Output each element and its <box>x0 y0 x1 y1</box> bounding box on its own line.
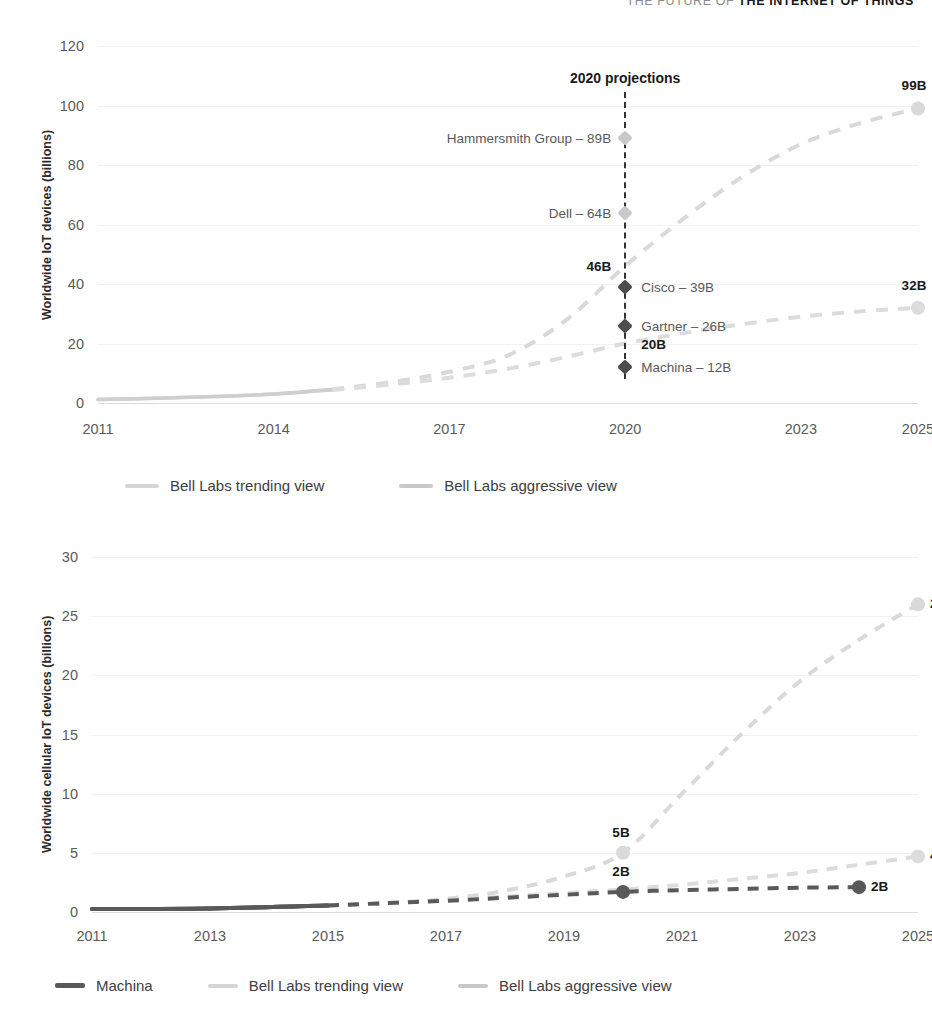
series-mid-value-label: 5B <box>612 825 629 840</box>
series-end-value-label: 32B <box>902 278 927 293</box>
projection-annotation-label: Gartner – 26B <box>641 318 726 333</box>
series-end-marker <box>911 849 925 863</box>
chart-page: THE FUTURE OF THE INTERNET OF THINGS Wor… <box>0 0 932 1023</box>
series-mid-value-label: 2B <box>612 864 629 879</box>
legend-swatch <box>458 984 488 988</box>
chart-cellular-iot-devices: Worldwide cellular IoT devices (billions… <box>0 535 932 1023</box>
series-end-marker <box>911 597 925 611</box>
legend-item[interactable]: Bell Labs trending view <box>125 477 324 494</box>
series-mid-marker <box>616 846 630 860</box>
projection-annotation-title: 2020 projections <box>570 70 681 86</box>
chart-iot-devices-legend: Bell Labs trending viewBell Labs aggress… <box>125 477 617 494</box>
legend-label: Bell Labs aggressive view <box>499 977 672 994</box>
chart-iot-devices: Worldwide IoT devices (billions) 0204060… <box>0 0 932 515</box>
series-projection-line <box>328 604 918 905</box>
legend-item[interactable]: Machina <box>55 977 153 994</box>
legend-swatch <box>208 984 238 988</box>
legend-swatch <box>399 484 433 488</box>
series-end-value-label: 99B <box>902 78 927 93</box>
legend-label: Machina <box>96 977 153 994</box>
chart-cellular-iot-devices-legend: MachinaBell Labs trending viewBell Labs … <box>55 977 672 994</box>
legend-label: Bell Labs trending view <box>170 477 324 494</box>
projection-annotation-label: 20B <box>641 336 666 351</box>
legend-item[interactable]: Bell Labs aggressive view <box>399 477 617 494</box>
series-historic-line <box>92 906 328 910</box>
series-canvas <box>0 0 932 515</box>
series-mid-marker <box>616 885 630 899</box>
projection-annotation-label: Cisco – 39B <box>641 279 714 294</box>
series-end-marker <box>911 301 925 315</box>
series-end-value-label: 2B <box>871 879 888 894</box>
legend-swatch <box>55 983 85 988</box>
legend-swatch <box>125 484 159 488</box>
projection-annotation-label: 46B <box>586 259 611 274</box>
projection-annotation-label: Machina – 12B <box>641 360 731 375</box>
series-historic-line <box>98 390 332 400</box>
legend-label: Bell Labs trending view <box>249 977 403 994</box>
series-end-marker <box>852 880 866 894</box>
legend-item[interactable]: Bell Labs aggressive view <box>458 977 672 994</box>
legend-label: Bell Labs aggressive view <box>444 477 617 494</box>
projection-annotation-label: Dell – 64B <box>549 205 611 220</box>
series-end-marker <box>911 101 925 115</box>
projection-annotation-label: Hammersmith Group – 89B <box>447 131 611 146</box>
legend-item[interactable]: Bell Labs trending view <box>208 977 403 994</box>
series-canvas <box>0 535 932 1023</box>
